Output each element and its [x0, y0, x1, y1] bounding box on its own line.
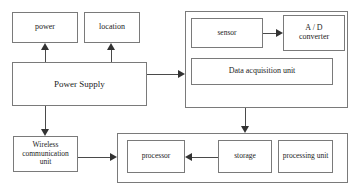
node-data-acquisition-unit-label: Data acquisition unit: [227, 67, 298, 76]
node-processor-label: processor: [140, 152, 173, 160]
node-location-label: location: [97, 23, 127, 32]
node-ad-converter-label: A / D converter: [297, 24, 331, 42]
node-sensor-label: sensor: [215, 29, 238, 37]
node-power-supply-label: Power Supply: [52, 79, 107, 89]
node-power[interactable]: power: [12, 12, 78, 43]
connector-powersupply-power-line: [45, 50, 46, 62]
node-wireless-communication-unit[interactable]: Wireless communication unit: [13, 136, 78, 172]
node-processor[interactable]: processor: [127, 140, 185, 173]
node-location[interactable]: location: [84, 12, 140, 43]
connector-wireless-processing-line: [78, 157, 110, 158]
node-processing-unit-label: processing unit: [281, 152, 331, 160]
node-ad-converter-label-line2: converter: [297, 33, 331, 42]
node-sensor[interactable]: sensor: [191, 18, 263, 48]
connector-powersupply-daq-arrow: [178, 70, 185, 78]
node-storage-label: storage: [232, 152, 258, 160]
connector-sensor-adc-arrow: [276, 29, 283, 37]
node-data-acquisition-unit[interactable]: Data acquisition unit: [191, 58, 333, 85]
node-wireless-label-line3: unit: [20, 158, 71, 166]
connector-sensor-adc-line: [263, 33, 276, 34]
connector-daq-processing-arrow: [241, 126, 249, 133]
connector-storage-processor-line: [192, 157, 218, 158]
node-power-label: power: [33, 23, 57, 32]
node-processing-unit[interactable]: processing unit: [278, 140, 333, 173]
connector-powersupply-location-arrow: [107, 43, 115, 50]
node-ad-converter[interactable]: A / D converter: [283, 15, 345, 51]
node-power-supply[interactable]: Power Supply: [12, 62, 147, 106]
connector-storage-processor-arrow: [185, 153, 192, 161]
connector-powersupply-location-line: [111, 50, 112, 62]
connector-powersupply-wireless-arrow: [41, 129, 49, 136]
block-diagram: power location Power Supply Wireless com…: [0, 0, 359, 187]
node-wireless-label: Wireless communication unit: [20, 141, 71, 166]
connector-daq-processing-line: [245, 108, 246, 126]
node-storage[interactable]: storage: [218, 140, 272, 173]
connector-powersupply-power-arrow: [41, 43, 49, 50]
connector-powersupply-wireless-line: [45, 106, 46, 129]
connector-powersupply-daq-line: [147, 74, 178, 75]
connector-wireless-processing-arrow: [110, 153, 117, 161]
